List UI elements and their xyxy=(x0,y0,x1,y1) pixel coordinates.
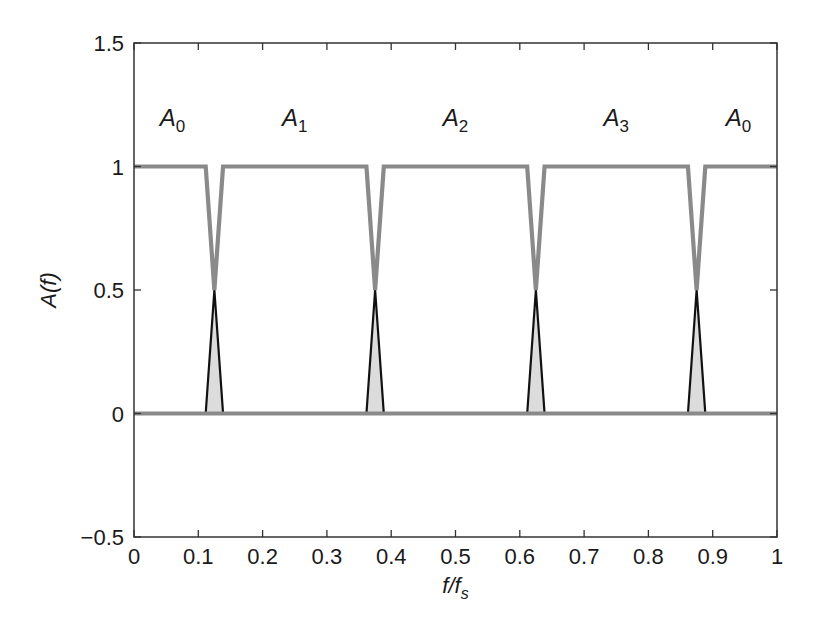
x-tick-label: 0.2 xyxy=(247,544,278,569)
x-tick-label: 0.3 xyxy=(312,544,343,569)
x-tick-label: 1 xyxy=(771,544,783,569)
region-label-a1: A1 xyxy=(280,104,307,136)
y-tick-label: 0.5 xyxy=(93,278,124,303)
x-axis-label: f/fs xyxy=(442,573,468,602)
transition-triangle xyxy=(366,290,383,414)
plot-area xyxy=(134,167,777,414)
transition-triangle xyxy=(527,290,544,414)
region-label-a0: A0 xyxy=(724,104,751,136)
x-tick-label: 0.6 xyxy=(505,544,536,569)
x-tick-label: 0.5 xyxy=(440,544,471,569)
passband-line xyxy=(134,167,777,291)
x-tick-label: 0.9 xyxy=(697,544,728,569)
x-tick-label: 0.4 xyxy=(376,544,407,569)
x-tick-label: 0.1 xyxy=(183,544,214,569)
y-tick-label: 0 xyxy=(112,402,124,427)
y-tick-label: −0.5 xyxy=(81,525,124,550)
region-label-a2: A2 xyxy=(441,104,468,136)
region-label-a3: A3 xyxy=(602,104,629,136)
region-labels: A0A1A2A3A0 xyxy=(158,104,751,136)
y-tick-label: 1.5 xyxy=(93,31,124,56)
y-axis-label: A(f) xyxy=(36,272,61,309)
y-tick-label: 1 xyxy=(112,155,124,180)
chart-canvas: 00.10.20.30.40.50.60.70.80.91−0.500.511.… xyxy=(0,0,815,625)
x-tick-label: 0 xyxy=(128,544,140,569)
transition-triangle xyxy=(206,290,223,414)
x-tick-label: 0.8 xyxy=(633,544,664,569)
x-tick-label: 0.7 xyxy=(569,544,600,569)
transition-triangle xyxy=(688,290,705,414)
tick-labels: 00.10.20.30.40.50.60.70.80.91−0.500.511.… xyxy=(81,31,784,569)
region-label-a0: A0 xyxy=(158,104,185,136)
